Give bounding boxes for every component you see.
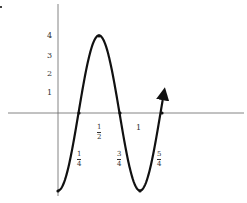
x-tick-label-quarter: 14 (77, 151, 81, 168)
y-tick-label: 3 (47, 52, 52, 60)
y-tick-label: 2 (47, 70, 52, 78)
min-point (56, 189, 59, 192)
zero-point (118, 111, 121, 114)
x-tick-label-half: 12 (97, 124, 101, 141)
min-point (138, 189, 141, 192)
sine-graph (0, 0, 247, 203)
zero-point (160, 111, 163, 114)
x-tick-label-three-quarters: 34 (117, 151, 121, 168)
y-tick-label: 1 (47, 89, 52, 97)
x-tick-label-one: 1 (136, 124, 141, 132)
zero-point (77, 111, 80, 114)
y-tick-label: 4 (47, 32, 52, 40)
x-tick-label-five-quarters: 54 (157, 151, 161, 168)
max-point (97, 34, 100, 37)
